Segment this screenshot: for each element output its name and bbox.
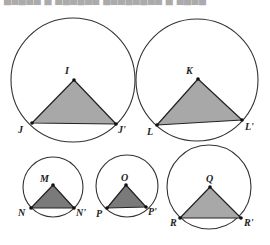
circle-group-i: IJJ' bbox=[11, 18, 135, 142]
vertex-label-i: I bbox=[64, 65, 70, 76]
vertex-point-j bbox=[30, 121, 34, 125]
triangle-i bbox=[32, 80, 116, 124]
geometry-figure: ▇▆▇▅▆ ▇ ▆▇▆▇▅▆ ▇▆▅▇▆▇▅▆ ▇ ▆▇▆▇ IJJ'KLL'M… bbox=[0, 0, 270, 245]
vertex-label-j: J bbox=[17, 124, 24, 135]
vertex-label-m: M bbox=[39, 173, 50, 184]
vertex-label-r: R bbox=[169, 217, 177, 228]
circle-group-k: KLL' bbox=[136, 19, 258, 141]
circle-group-m: MNN' bbox=[17, 157, 86, 218]
circle-group-q: QRR' bbox=[167, 145, 254, 229]
vertex-label-k: K bbox=[185, 65, 194, 76]
vertex-label-p: P bbox=[96, 208, 103, 219]
vertex-point-n bbox=[29, 206, 33, 210]
circles-and-triangles-diagram: IJJ'KLL'MNN'OPP'QRR' bbox=[0, 0, 270, 245]
vertex-point-r-prime bbox=[239, 216, 243, 220]
vertex-point-q bbox=[208, 185, 212, 189]
vertex-label-l-prime: L' bbox=[244, 121, 254, 132]
triangle-m bbox=[31, 185, 74, 208]
vertex-point-k bbox=[196, 77, 200, 81]
vertex-point-o bbox=[124, 183, 128, 187]
vertex-label-r-prime: R' bbox=[243, 217, 254, 228]
vertex-point-m bbox=[51, 183, 55, 187]
vertex-label-l: L bbox=[146, 126, 153, 137]
triangle-o bbox=[107, 185, 146, 208]
vertex-point-p bbox=[105, 206, 109, 210]
circle-group-o: OPP' bbox=[96, 155, 158, 219]
vertex-point-l-prime bbox=[240, 118, 244, 122]
vertex-label-o: O bbox=[121, 172, 128, 183]
vertex-point-i bbox=[72, 78, 76, 82]
triangle-q bbox=[180, 187, 241, 218]
triangle-k bbox=[157, 79, 242, 125]
vertex-point-l bbox=[155, 123, 159, 127]
vertex-label-j-prime: J' bbox=[117, 124, 126, 135]
vertex-label-q: Q bbox=[206, 173, 213, 184]
vertex-point-r bbox=[178, 216, 182, 220]
vertex-label-n-prime: N' bbox=[75, 207, 86, 218]
vertex-label-n: N bbox=[17, 207, 26, 218]
vertex-label-p-prime: P' bbox=[148, 206, 157, 217]
